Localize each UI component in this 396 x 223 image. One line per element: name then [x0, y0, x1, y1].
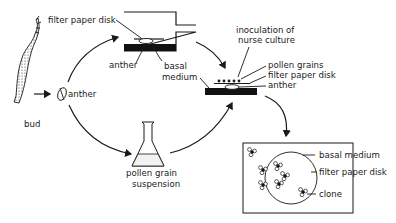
leader-line	[241, 66, 266, 79]
flask-to-nurse-arrow	[170, 103, 232, 153]
inoculation-label-2: nurse culture	[238, 35, 295, 45]
leader-line	[250, 76, 266, 83]
pollen-grains-label: pollen grains	[268, 60, 324, 70]
leader-line	[238, 47, 249, 77]
diagram-canvas: bud anther filter paper disk anther basa…	[0, 0, 396, 223]
filter-paper-disk-label-2: filter paper disk	[268, 70, 336, 80]
anther-label: anther	[68, 89, 97, 99]
suspension-label-1: pollen grain	[126, 168, 177, 178]
anther-culture-vessel	[124, 12, 196, 51]
anther-label-3: anther	[268, 80, 297, 90]
leader-line	[200, 78, 209, 88]
anther-illustration	[56, 87, 68, 102]
filter-paper-disk-label-1: filter paper disk	[48, 15, 116, 25]
nurse-culture-plate	[205, 80, 257, 95]
nurse-to-plate-arrow	[265, 96, 287, 136]
anther-to-flask-arrow	[69, 105, 131, 154]
basal-medium-label-2: basal medium	[319, 150, 380, 160]
suspension-label-2: suspension	[132, 179, 180, 189]
anther-label-2: anther	[109, 60, 138, 70]
bud-illustration	[14, 16, 41, 103]
filter-paper-disk-label-3: filter paper disk	[319, 167, 387, 177]
basal-medium-label-1b: medium	[162, 72, 197, 82]
bud-label: bud	[24, 119, 40, 129]
leader-line	[239, 86, 266, 87]
inoculation-label-1: inoculation of	[236, 25, 295, 35]
culture-to-nurse-arrow	[196, 42, 225, 68]
flask-illustration	[132, 122, 164, 166]
basal-medium-label-1a: basal	[164, 61, 187, 71]
leader-line	[116, 20, 141, 38]
clone-label: clone	[319, 189, 342, 199]
